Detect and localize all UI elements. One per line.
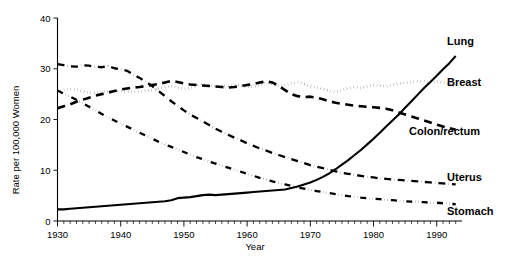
x-tick-label: 1960 — [237, 229, 258, 240]
y-axis-title: Rate per 100,000 Women — [10, 86, 21, 195]
series-label-stomach: Stomach — [447, 205, 494, 217]
x-tick-label: 1930 — [47, 229, 68, 240]
y-tick-label: 20 — [40, 114, 51, 125]
y-tick-label: 40 — [40, 13, 51, 24]
y-tick-label: 0 — [45, 216, 50, 227]
x-axis-title: Year — [245, 241, 264, 252]
series-line-lung — [58, 56, 456, 209]
y-axis-ticks: 010203040 — [40, 13, 58, 227]
series-label-colon-rectum: Colon/rectum — [409, 125, 480, 137]
y-tick-label: 30 — [40, 63, 51, 74]
cancer-mortality-line-chart: 010203040 1930194019501960197019801990 R… — [0, 0, 505, 268]
series-label-breast: Breast — [447, 76, 482, 88]
series-label-uterus: Uterus — [447, 171, 482, 183]
data-series — [58, 56, 456, 209]
chart-canvas: 010203040 1930194019501960197019801990 R… — [0, 0, 505, 268]
x-tick-label: 1990 — [426, 229, 447, 240]
x-tick-label: 1940 — [110, 229, 131, 240]
y-tick-label: 10 — [40, 165, 51, 176]
x-tick-label: 1950 — [173, 229, 194, 240]
x-tick-label: 1980 — [363, 229, 384, 240]
series-label-lung: Lung — [447, 35, 474, 47]
x-axis-ticks: 1930194019501960197019801990 — [47, 221, 447, 240]
x-tick-label: 1970 — [300, 229, 321, 240]
series-line-colon-rectum — [58, 81, 456, 130]
